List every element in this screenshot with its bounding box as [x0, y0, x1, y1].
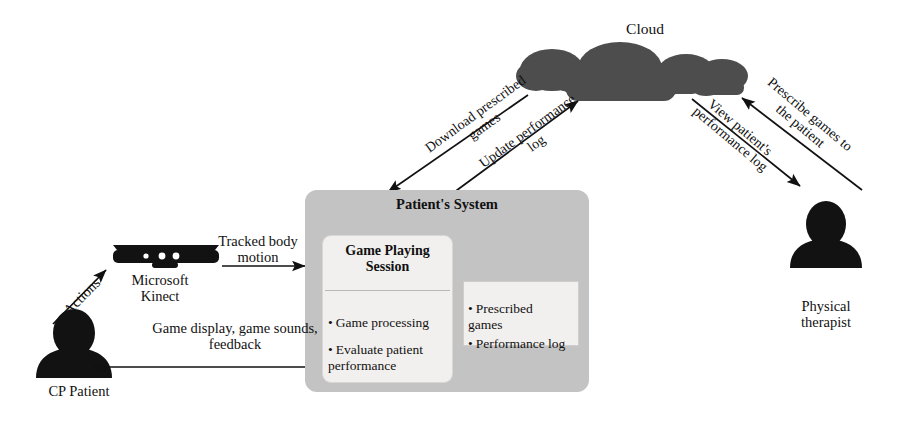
microsoft-kinect-label: Microsoft Kinect — [105, 272, 215, 304]
game-playing-session-divider — [325, 290, 450, 291]
cloud-label: Cloud — [585, 20, 705, 37]
bullet-icon: • — [468, 301, 473, 316]
patient-storage-item-label: Performance log — [476, 336, 566, 351]
game-playing-session-item: •Evaluate patient performance — [328, 327, 452, 373]
patients-system-title: Patient's System — [305, 196, 589, 213]
game-playing-session-title: Game Playing Session — [322, 243, 453, 275]
patient-storage-item: •Performance log — [468, 321, 580, 352]
physical-therapist-label: Physical therapist — [766, 298, 886, 330]
cloud-icon — [516, 42, 748, 101]
flow-label-tracked-body-motion: Tracked body motion — [203, 233, 313, 265]
cp-patient-label: CP Patient — [24, 383, 134, 399]
physical-therapist-avatar — [790, 201, 862, 268]
bullet-icon: • — [468, 336, 473, 351]
flow-label-game-display-sounds-feedback: Game display, game sounds, feedback — [125, 320, 345, 352]
diagram-canvas: Cloud Download prescribed games Update p… — [0, 0, 902, 432]
